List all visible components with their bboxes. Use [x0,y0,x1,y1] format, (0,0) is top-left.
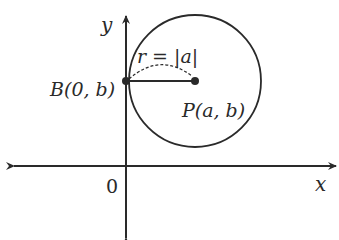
point-b [122,77,130,85]
point-b-label: B(0, b) [49,78,115,100]
point-p-label: P(a, b) [181,99,245,121]
radius-label: r = |a| [137,45,198,68]
origin-label: 0 [106,175,118,197]
diagram-canvas: y x 0 r = |a| B(0, b) P(a, b) [0,0,339,240]
y-axis-label: y [100,13,113,37]
point-p [191,77,199,85]
x-axis-label: x [315,172,326,196]
